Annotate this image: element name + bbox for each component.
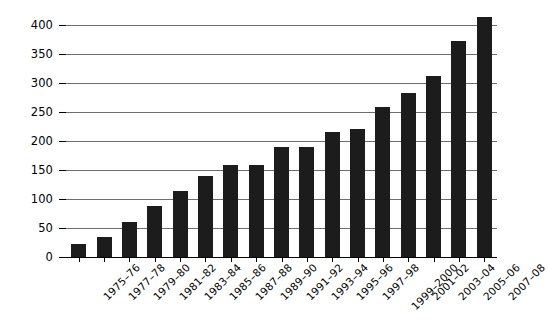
- y-axis-tick-label: 100: [31, 192, 53, 206]
- x-axis-tick: [484, 258, 485, 262]
- y-axis-tick: [59, 199, 66, 200]
- bar: [249, 165, 264, 257]
- bar: [223, 165, 238, 257]
- x-axis-tick: [205, 258, 206, 262]
- y-axis-tick-label: 150: [31, 163, 53, 177]
- y-axis-tick: [59, 25, 66, 26]
- bar: [426, 76, 441, 257]
- bar: [122, 222, 137, 257]
- bar: [451, 41, 466, 257]
- x-axis-labels: 1975–761977–781979–801981–821983–841985–…: [66, 259, 497, 325]
- bar: [71, 244, 86, 257]
- bar: [350, 129, 365, 257]
- bar: [274, 147, 289, 257]
- y-axis-tick-label: 250: [31, 105, 53, 119]
- y-axis-tick-label: 350: [31, 47, 53, 61]
- y-axis-tick: [59, 170, 66, 171]
- bar-series: [66, 0, 497, 258]
- bar: [299, 147, 314, 257]
- y-axis-tick: [59, 54, 66, 55]
- x-axis-tick: [358, 258, 359, 262]
- y-axis-tick-label: 300: [31, 76, 53, 90]
- x-axis-tick: [408, 258, 409, 262]
- y-axis-tick-label: 450: [31, 0, 53, 3]
- bar: [375, 107, 390, 257]
- x-axis-tick: [282, 258, 283, 262]
- y-axis-tick: [59, 112, 66, 113]
- bar: [173, 191, 188, 257]
- x-axis-tick: [332, 258, 333, 262]
- x-axis-tick: [459, 258, 460, 262]
- x-axis-tick: [383, 258, 384, 262]
- y-axis-tick-label: 400: [31, 18, 53, 32]
- x-axis-tick: [129, 258, 130, 262]
- x-axis-tick: [155, 258, 156, 262]
- x-axis-tick: [180, 258, 181, 262]
- x-axis-tick: [256, 258, 257, 262]
- x-axis-tick: [79, 258, 80, 262]
- y-axis-tick: [59, 141, 66, 142]
- x-axis-tick: [104, 258, 105, 262]
- y-axis-tick: [59, 228, 66, 229]
- bar: [147, 206, 162, 257]
- x-axis-tick: [434, 258, 435, 262]
- x-axis-tick: [231, 258, 232, 262]
- y-axis-tick-label: 0: [46, 250, 53, 264]
- bar: [198, 176, 213, 257]
- bar: [97, 237, 112, 257]
- bar: [477, 17, 492, 257]
- y-axis-tick-label: 50: [38, 221, 53, 235]
- y-axis-tick: [59, 83, 66, 84]
- y-axis-tick-label: 200: [31, 134, 53, 148]
- bar: [325, 132, 340, 257]
- x-axis-tick: [307, 258, 308, 262]
- bar: [401, 93, 416, 257]
